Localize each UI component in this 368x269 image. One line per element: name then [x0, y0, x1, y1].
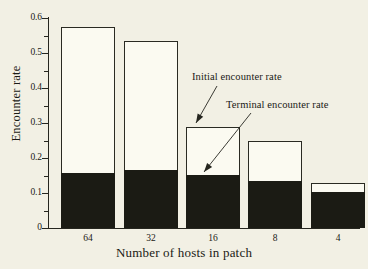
annotation-terminal-encounter-rate: Terminal encounter rate	[226, 99, 328, 111]
y-tick-label: 0.2	[2, 153, 42, 163]
bar-16	[186, 127, 240, 229]
annotation-initial-encounter-rate: Initial encounter rate	[192, 71, 282, 83]
y-tick-label: 0.6	[2, 13, 42, 23]
x-tick-label-4: 4	[311, 233, 365, 243]
x-tick-label-32: 32	[124, 233, 178, 243]
bar-64	[61, 27, 115, 228]
bar-terminal-segment-32	[124, 170, 178, 228]
bar-terminal-segment-16	[186, 175, 240, 228]
x-tick-label-64: 64	[61, 233, 115, 243]
bar-4	[311, 183, 365, 228]
bar-32	[124, 41, 178, 228]
bar-terminal-segment-64	[61, 173, 115, 228]
x-axis-title: Number of hosts in patch	[0, 245, 368, 261]
x-tick-label-8: 8	[248, 233, 302, 243]
y-tick-label: 0.1	[2, 188, 42, 198]
y-tick-label: 0.3	[2, 118, 42, 128]
plot-area	[48, 18, 360, 228]
bar-terminal-segment-4	[311, 192, 365, 228]
bar-8	[248, 141, 302, 229]
y-tick-label: 0.5	[2, 48, 42, 58]
bar-terminal-segment-8	[248, 181, 302, 228]
x-tick-label-16: 16	[186, 233, 240, 243]
x-axis-line	[48, 228, 360, 229]
y-tick-major	[42, 228, 49, 229]
y-tick-label: 0.4	[2, 83, 42, 93]
y-tick-label: 0	[2, 223, 42, 233]
encounter-rate-bar-chart: Encounter rate 00.10.20.30.40.50.6 64321…	[0, 0, 368, 269]
